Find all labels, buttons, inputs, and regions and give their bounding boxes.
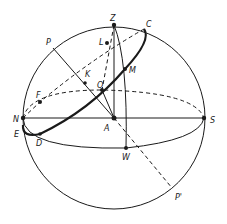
point-l: [105, 41, 109, 45]
label-z: Z: [109, 14, 116, 23]
point-s: [202, 116, 206, 120]
point-m: [123, 67, 127, 71]
label-p-prime: P': [175, 193, 182, 202]
label-e: E: [14, 130, 20, 139]
label-k: K: [85, 70, 91, 79]
point-f: [38, 100, 42, 104]
point-k: [83, 81, 87, 85]
label-m: M: [129, 66, 136, 75]
zenith-dashed-line: [102, 25, 114, 90]
label-f: F: [36, 91, 41, 100]
label-o: O: [97, 81, 103, 90]
label-a: A: [103, 124, 109, 133]
diagram-svg: Z C P L K O M F N A S E D W P': [0, 0, 227, 224]
horizon-front: [23, 118, 204, 148]
label-p: P: [46, 38, 51, 47]
point-n: [21, 116, 25, 120]
label-l: L: [99, 38, 103, 47]
o-a-line: [102, 90, 114, 118]
celestial-sphere-diagram: Z C P L K O M F N A S E D W P': [0, 0, 227, 224]
point-z: [112, 23, 116, 27]
point-d: [38, 132, 42, 136]
label-d: D: [36, 139, 42, 148]
point-a: [112, 116, 117, 121]
label-w: W: [122, 153, 131, 162]
label-c: C: [146, 20, 152, 29]
point-w: [124, 146, 128, 150]
label-s: S: [210, 116, 215, 125]
label-n: N: [13, 115, 19, 124]
